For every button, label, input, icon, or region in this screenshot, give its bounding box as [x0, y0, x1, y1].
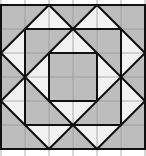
- quilt-pattern-figure: [0, 0, 146, 156]
